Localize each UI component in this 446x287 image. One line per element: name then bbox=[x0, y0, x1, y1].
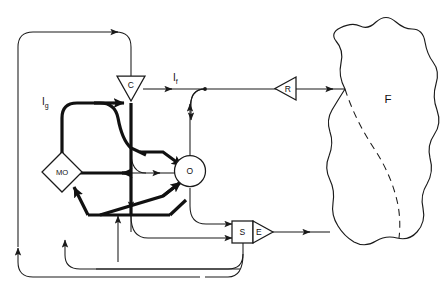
node-o[interactable]: O bbox=[175, 156, 206, 187]
svg-text:Ig: Ig bbox=[42, 96, 49, 110]
diagram-svg: F C MO O S E R bbox=[0, 0, 446, 287]
edge-label-ig-sub: g bbox=[45, 102, 49, 110]
edge-return-loop-inner bbox=[65, 240, 240, 269]
svg-text:If: If bbox=[173, 72, 178, 85]
edge-top-to-c bbox=[112, 32, 131, 76]
edge-label-if: If bbox=[173, 72, 178, 85]
edge-o-down-riser bbox=[190, 188, 232, 224]
node-s[interactable]: S bbox=[232, 221, 253, 243]
bold-wiring-group bbox=[62, 103, 186, 215]
diagram-canvas: F C MO O S E R bbox=[0, 0, 446, 287]
edge-label-if-sub: f bbox=[176, 78, 178, 85]
edge-return-loop-outer-tail bbox=[205, 254, 243, 277]
edge-o-riser-to-ifline bbox=[190, 89, 205, 110]
node-mo[interactable]: MO bbox=[42, 152, 82, 192]
thin-wiring-group bbox=[18, 32, 345, 277]
edge-bold-rail-into-o bbox=[163, 182, 181, 196]
edge-bold-scurve bbox=[100, 103, 146, 155]
edge-ig-riser bbox=[62, 103, 100, 157]
edge-bold-o-to-rail bbox=[100, 181, 182, 215]
node-s-label: S bbox=[240, 227, 246, 237]
edge-if-branch-down bbox=[191, 89, 205, 120]
blob-f-dashed-curve bbox=[345, 89, 400, 238]
node-r-label: R bbox=[285, 84, 291, 94]
node-c-label: C bbox=[128, 80, 134, 90]
node-c[interactable]: C bbox=[117, 76, 145, 101]
node-r[interactable]: R bbox=[275, 77, 296, 100]
blob-f-outline bbox=[327, 18, 439, 245]
node-mo-label: MO bbox=[56, 168, 68, 177]
node-e-label: E bbox=[256, 227, 262, 237]
node-o-label: O bbox=[187, 166, 194, 176]
edge-label-ig: Ig bbox=[42, 96, 49, 110]
node-e[interactable]: E bbox=[253, 221, 273, 243]
blob-f-group: F bbox=[327, 18, 439, 245]
edge-bold-rail-to-mo bbox=[74, 187, 88, 215]
edge-return-loop-outer bbox=[18, 248, 200, 277]
edge-web-to-s-lower bbox=[131, 216, 232, 238]
blob-f-label: F bbox=[384, 93, 391, 105]
edge-bold-rail-diag bbox=[170, 200, 186, 215]
